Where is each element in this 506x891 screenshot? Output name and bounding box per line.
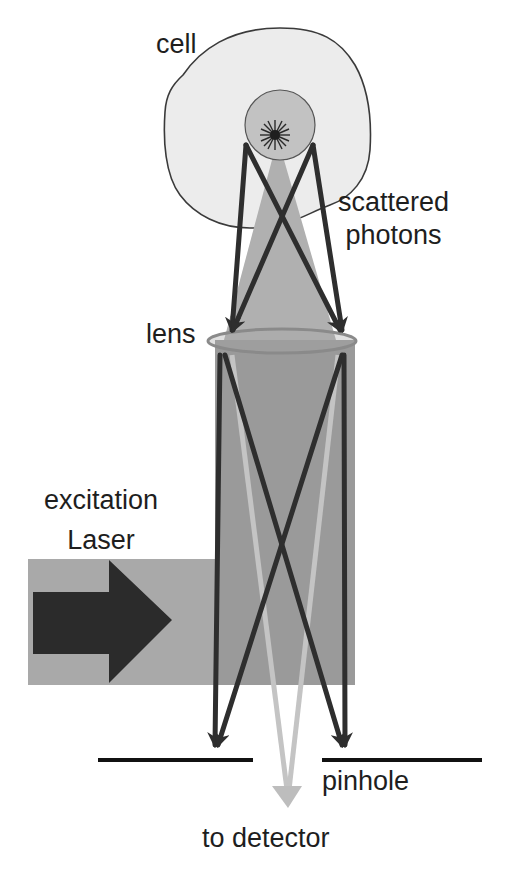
label-cell: cell: [156, 28, 197, 60]
confocal-diagram: [0, 0, 506, 891]
lens: [208, 329, 356, 353]
label-pinhole: pinhole: [322, 765, 409, 797]
label-excitation-line1: excitation: [44, 484, 158, 516]
label-lens: lens: [146, 318, 196, 350]
label-scattered-line1: scattered: [338, 186, 449, 218]
label-excitation-line2: Laser: [44, 524, 158, 556]
label-scattered-photons: scattered photons: [338, 186, 449, 251]
label-excitation-laser: excitation Laser: [44, 484, 158, 556]
label-to-detector: to detector: [202, 822, 330, 854]
detector-arrow-icon: [272, 786, 302, 808]
label-scattered-line2: photons: [338, 219, 449, 251]
